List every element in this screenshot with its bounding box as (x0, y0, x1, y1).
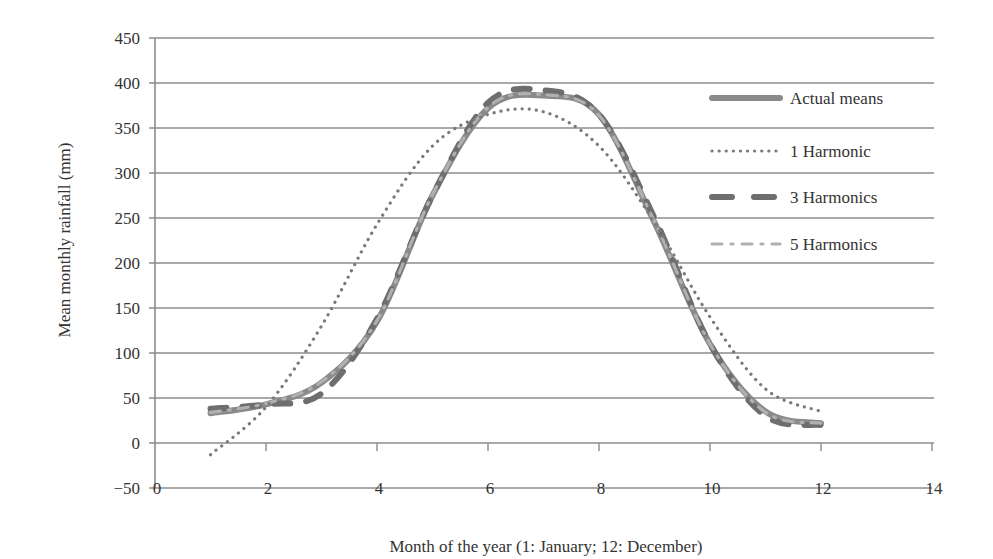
legend-item: 5 Harmonics (712, 235, 877, 254)
series-5-harmonics (211, 94, 822, 424)
legend: Actual means1 Harmonic3 Harmonics5 Harmo… (712, 89, 883, 254)
x-tick-label: 0 (153, 479, 162, 498)
y-tick-label: 200 (115, 254, 141, 273)
x-tick-label: 12 (815, 479, 832, 498)
x-tick-label: 4 (375, 479, 384, 498)
legend-label: 5 Harmonics (790, 235, 877, 254)
x-tick-label: 8 (597, 479, 606, 498)
rainfall-chart: −500501001502002503003504004500246810121… (0, 0, 993, 559)
series-1-harmonic (211, 109, 822, 455)
y-tick-label: 50 (123, 389, 140, 408)
y-tick-label: 300 (115, 164, 141, 183)
series-lines (211, 89, 822, 455)
y-tick-label: 350 (115, 119, 141, 138)
y-tick-label: 100 (115, 344, 141, 363)
y-tick-label: 250 (115, 209, 141, 228)
x-axis-title: Month of the year (1: January; 12: Decem… (390, 537, 703, 556)
x-tick-label: 2 (264, 479, 273, 498)
legend-item: 3 Harmonics (712, 188, 877, 207)
legend-label: 3 Harmonics (790, 188, 877, 207)
x-tick-label: 6 (486, 479, 495, 498)
legend-label: Actual means (790, 89, 883, 108)
legend-label: 1 Harmonic (790, 142, 871, 161)
series-3-harmonics (211, 89, 822, 425)
y-tick-label: 0 (132, 434, 141, 453)
y-tick-label: −50 (113, 479, 140, 498)
y-tick-label: 150 (115, 299, 141, 318)
y-tick-label: 450 (115, 29, 141, 48)
legend-item: Actual means (712, 89, 883, 108)
y-tick-label: 400 (115, 74, 141, 93)
y-axis-title: Mean monthly rainfall (mm) (55, 143, 74, 338)
x-tick-label: 10 (704, 479, 721, 498)
legend-item: 1 Harmonic (712, 142, 871, 161)
x-tick-label: 14 (926, 479, 944, 498)
